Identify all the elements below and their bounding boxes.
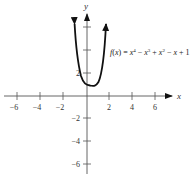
x-tick-label: 6	[153, 103, 157, 112]
x-tick-label: −6	[10, 103, 19, 112]
x-tick-label: 2	[107, 103, 111, 112]
y-tick-label: −2	[71, 114, 80, 123]
x-tick-label: −2	[56, 103, 65, 112]
x-tick-label: 4	[130, 103, 134, 112]
y-tick-label: −6	[71, 160, 80, 169]
x-tick-label: −4	[33, 103, 42, 112]
function-label: f(x) = x4 − x3 + x2 − x + 1	[110, 48, 189, 57]
y-tick-label: −4	[71, 137, 80, 146]
function-graph: −6 −4 −2 2 4 6 2 −2 −4 −6 x y f(x) = x4 …	[0, 0, 194, 176]
x-axis-label: x	[176, 91, 181, 101]
y-axis-label: y	[83, 1, 88, 11]
